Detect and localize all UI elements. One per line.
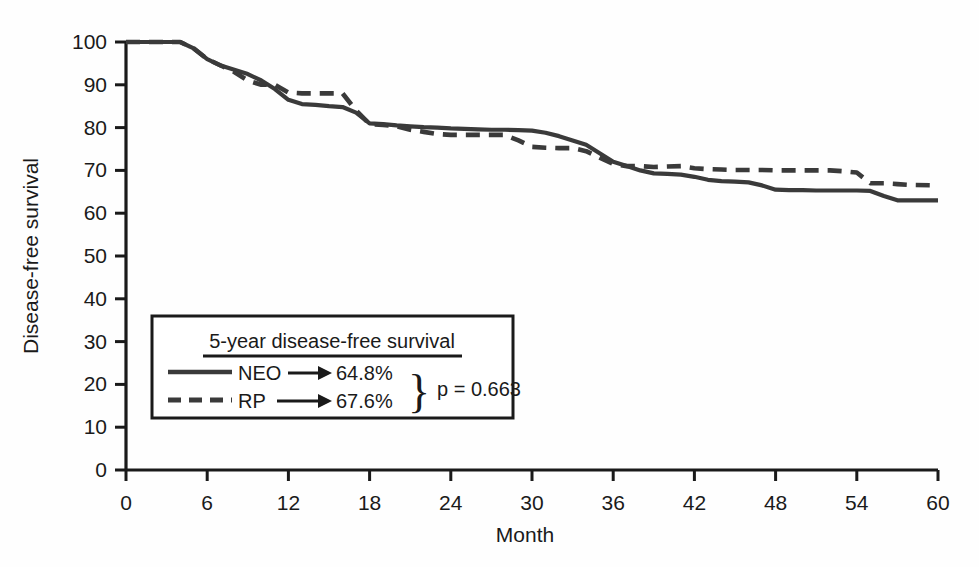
legend-box: 5-year disease-free survival NEO 64.8% R… <box>152 316 521 418</box>
x-axis-title: Month <box>496 523 554 546</box>
x-axis-group: 06121824303642485460 Month <box>120 470 950 546</box>
y-axis-title: Disease-free survival <box>19 158 42 354</box>
y-tick-label: 20 <box>84 372 107 395</box>
x-tick-marks <box>126 470 938 481</box>
y-tick-label: 30 <box>84 330 107 353</box>
x-tick-label: 42 <box>683 491 706 514</box>
x-tick-label: 30 <box>520 491 543 514</box>
x-tick-label: 48 <box>764 491 787 514</box>
survival-chart: 0102030405060708090100 Disease-free surv… <box>0 0 979 567</box>
y-tick-label: 40 <box>84 287 107 310</box>
y-tick-label: 60 <box>84 201 107 224</box>
y-tick-label: 70 <box>84 158 107 181</box>
x-tick-label: 36 <box>602 491 625 514</box>
x-tick-label: 24 <box>439 491 463 514</box>
legend-label-rp: RP <box>238 390 266 412</box>
x-tick-label: 60 <box>926 491 949 514</box>
y-tick-label: 10 <box>84 415 107 438</box>
y-tick-label: 0 <box>95 458 107 481</box>
x-tick-label: 0 <box>120 491 132 514</box>
legend-value-neo: 64.8% <box>336 362 393 384</box>
x-tick-label: 6 <box>201 491 213 514</box>
figure-container: 0102030405060708090100 Disease-free surv… <box>0 0 979 567</box>
x-tick-labels: 06121824303642485460 <box>120 491 950 514</box>
y-tick-labels: 0102030405060708090100 <box>72 30 107 481</box>
series-group <box>126 42 938 200</box>
legend-label-neo: NEO <box>238 362 281 384</box>
legend-pvalue: p = 0.663 <box>437 378 521 400</box>
legend-value-rp: 67.6% <box>336 390 393 412</box>
x-tick-label: 12 <box>277 491 300 514</box>
y-tick-label: 100 <box>72 30 107 53</box>
legend-brace: } <box>408 366 430 417</box>
x-tick-label: 54 <box>845 491 869 514</box>
x-tick-label: 18 <box>358 491 381 514</box>
y-axis-group: 0102030405060708090100 Disease-free surv… <box>19 30 126 481</box>
legend-title: 5-year disease-free survival <box>209 330 455 352</box>
y-tick-label: 90 <box>84 73 107 96</box>
y-tick-label: 50 <box>84 244 107 267</box>
series-line-neo <box>126 42 938 200</box>
series-line-rp <box>126 42 938 185</box>
y-tick-marks <box>115 42 126 470</box>
y-tick-label: 80 <box>84 116 107 139</box>
